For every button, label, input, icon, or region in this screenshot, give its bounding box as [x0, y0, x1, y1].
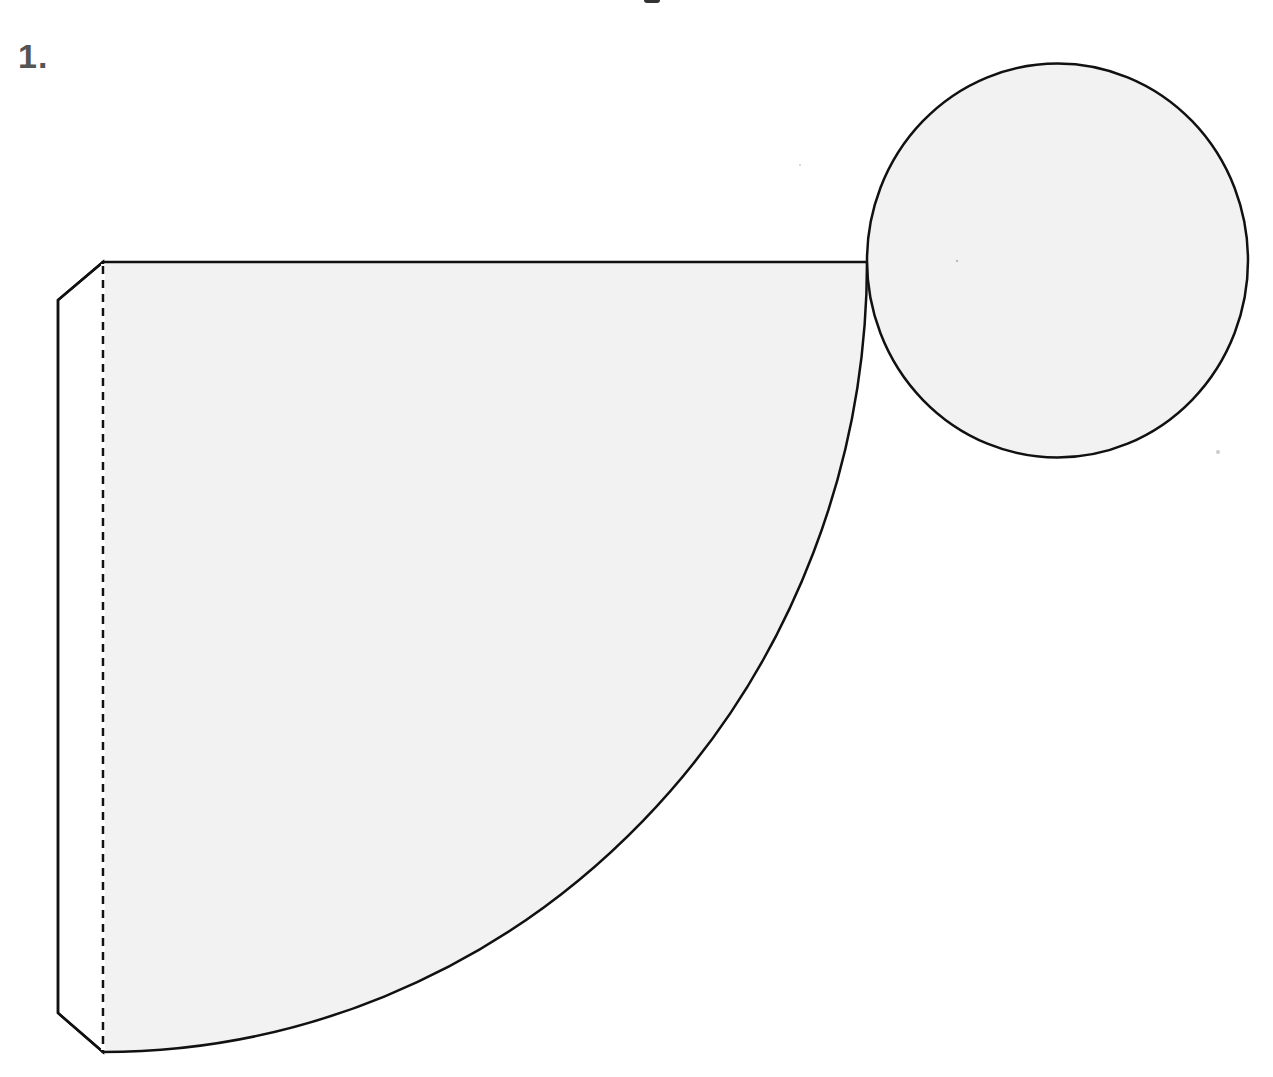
- paper-speck: [1216, 450, 1220, 454]
- base-circle: [867, 64, 1248, 458]
- paper-speck: [799, 164, 801, 166]
- paper-speck: [956, 260, 958, 262]
- cone-sector: [103, 262, 867, 1052]
- glue-tab: [58, 262, 103, 1052]
- cone-net-diagram: [0, 0, 1273, 1077]
